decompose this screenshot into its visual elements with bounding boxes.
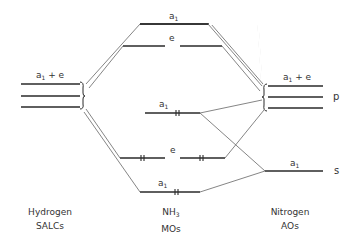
column-label-nh3: NH3 MOs <box>131 205 211 236</box>
mo-a1-bonding-label: a1 <box>158 179 167 189</box>
sym-sub: 1 <box>296 162 300 169</box>
column-label-line1: Nitrogen <box>250 205 330 219</box>
nh-text: NH <box>162 207 176 217</box>
sym-sub: 1 <box>164 182 168 189</box>
column-label-hydrogen: Hydrogen SALCs <box>10 205 90 233</box>
mo-e-antibonding-label: e <box>169 34 175 43</box>
sym-main: e <box>170 145 176 155</box>
mo-e-bonding-label: e <box>170 146 176 155</box>
column-label-line2: MOs <box>131 222 211 236</box>
ao-s-label: s <box>334 166 339 176</box>
right-p-label: a1 + e <box>283 73 311 83</box>
column-label-line2: AOs <box>250 219 330 233</box>
ao-p-label: p <box>333 92 339 102</box>
sym-rest: + e <box>45 70 64 80</box>
left-salc-label: a1 + e <box>36 71 64 81</box>
sym-sub: 1 <box>175 15 179 22</box>
right-s-label: a1 <box>290 159 299 169</box>
column-label-nitrogen: Nitrogen AOs <box>250 205 330 233</box>
mo-a1-antibonding-label: a1 <box>169 12 178 22</box>
column-label-line2: SALCs <box>10 219 90 233</box>
nh-sub: 3 <box>176 211 180 218</box>
sym-main: e <box>169 33 175 43</box>
sym-rest: + e <box>292 72 311 82</box>
column-label-line1: Hydrogen <box>10 205 90 219</box>
sym-sub: 1 <box>165 103 169 110</box>
column-label-line1: NH3 <box>131 205 211 222</box>
mo-a1-nonbonding-label: a1 <box>159 100 168 110</box>
